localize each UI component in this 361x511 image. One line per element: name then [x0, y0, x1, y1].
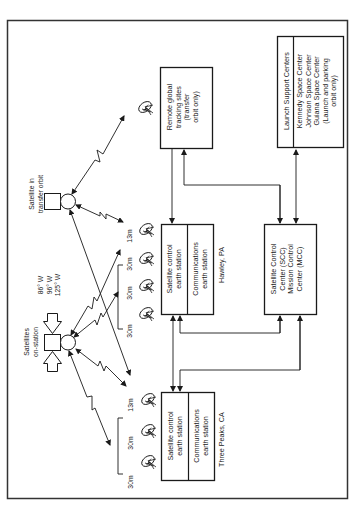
transfer-orbit-label: Satellite in transfer orbit: [28, 164, 45, 224]
remote-tracking-dish-icon: [137, 99, 154, 115]
launch-support-header: Launch Support Centers: [281, 36, 293, 146]
hawley-antenna-30m-3: 30m: [126, 324, 135, 338]
hawley-dish-30m-3-icon: [138, 305, 155, 321]
three-peaks-dish-30m-1-icon: [140, 422, 157, 438]
hawley-dish-30m-1-icon: [138, 250, 155, 266]
hawley-comms-text: Communications earth station: [192, 225, 209, 313]
hawley-location: Hawley, PA: [218, 245, 227, 285]
on-station-satellite-icon: [44, 314, 76, 372]
three-peaks-antenna-13m: 13m: [127, 398, 136, 412]
transfer-orbit-satellite-icon: [45, 194, 76, 210]
remote-tracking-text: Remote global tracking sites (transfer o…: [166, 68, 200, 146]
on-station-label: Satellites on-station: [23, 314, 40, 370]
three-peaks-control-text: Satellite control earth station: [167, 393, 184, 479]
three-peaks-dish-13m-icon: [140, 391, 157, 407]
control-center-text: Satellite Control Center (SCC) Mission C…: [270, 225, 304, 313]
longitudes-label: 86° W 96° W 125° W: [37, 268, 63, 302]
hawley-antenna-30m-1: 30m: [126, 257, 135, 271]
three-peaks-comms-text: Communications earth station: [193, 393, 210, 479]
three-peaks-antenna-30m-2: 30m: [127, 475, 136, 489]
hawley-antenna-30m-2: 30m: [126, 286, 135, 300]
hawley-antenna-13m: 13m: [126, 229, 135, 243]
three-peaks-antenna-30m-1: 30m: [127, 436, 136, 450]
three-peaks-location: Three Peaks, CA: [218, 397, 227, 467]
three-peaks-dish-30m-2-icon: [140, 453, 157, 469]
hawley-control-text: Satellite control earth station: [166, 225, 183, 313]
launch-support-list: Kennedy Space Center Johnson Space Cente…: [296, 36, 339, 146]
hawley-dish-30m-2-icon: [138, 277, 155, 293]
hawley-dish-13m-icon: [138, 221, 155, 237]
